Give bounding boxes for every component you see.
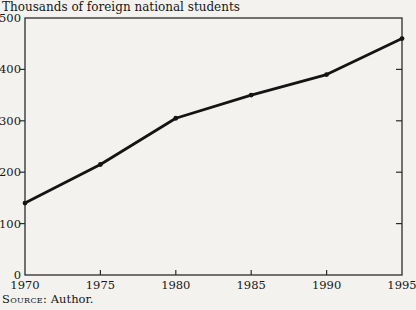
- y-axis-label: 200: [0, 165, 21, 179]
- source-label: Source:: [2, 292, 47, 306]
- data-point-marker: [98, 162, 103, 167]
- line-chart: 0100200300400500197019751980198519901995: [0, 0, 416, 310]
- data-point-marker: [324, 72, 329, 77]
- data-line: [25, 39, 402, 203]
- source-note: Source: Author.: [2, 292, 93, 306]
- y-axis-label: 300: [0, 114, 21, 128]
- x-axis-label: 1975: [86, 278, 115, 292]
- y-axis-label: 400: [0, 62, 21, 76]
- data-point-marker: [249, 93, 254, 98]
- x-axis-label: 1985: [237, 278, 266, 292]
- data-point-marker: [173, 116, 178, 121]
- y-axis-label: 500: [0, 11, 21, 25]
- x-axis-label: 1980: [161, 278, 190, 292]
- data-point-marker: [23, 201, 28, 206]
- y-axis-label: 100: [0, 217, 21, 231]
- x-axis-label: 1990: [312, 278, 341, 292]
- plot-frame: [25, 18, 402, 275]
- source-value: Author.: [51, 292, 94, 306]
- x-axis-label: 1970: [10, 278, 39, 292]
- figure-page: Thousands of foreign national students 0…: [0, 0, 416, 310]
- data-point-marker: [400, 36, 405, 41]
- x-axis-label: 1995: [387, 278, 416, 292]
